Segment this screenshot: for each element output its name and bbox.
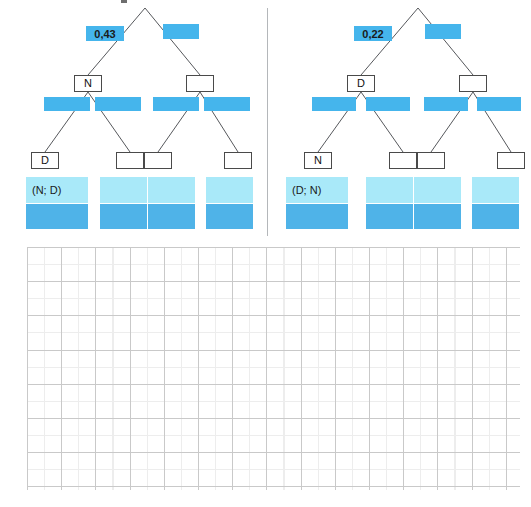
- outcome-label: [148, 177, 195, 203]
- right-tree-leaf-3[interactable]: [417, 152, 445, 169]
- left-tree-node-r[interactable]: [186, 75, 214, 92]
- outcome-label: [100, 177, 147, 203]
- outcome-bottom-band: [414, 204, 461, 229]
- right-tree-prob-right[interactable]: [425, 24, 461, 39]
- left-tree-prob-l1[interactable]: [44, 97, 90, 111]
- figure-canvas: 0,43 N D (N; D): [0, 0, 531, 507]
- right-tree-leaf-2[interactable]: [389, 152, 417, 169]
- left-tree-prob-r2[interactable]: [204, 97, 250, 111]
- right-tree-prob-left[interactable]: 0,22: [354, 26, 392, 41]
- right-tree-leaf-4[interactable]: [497, 152, 525, 169]
- outcome-label: [366, 177, 413, 203]
- left-tree-leaf-4[interactable]: [224, 152, 252, 169]
- left-tree-outcome-3[interactable]: [148, 177, 195, 229]
- right-tree-outcome-1[interactable]: (D; N): [286, 177, 348, 229]
- left-tree: 0,43 N D (N; D): [0, 0, 265, 240]
- right-tree-prob-l1[interactable]: [312, 97, 356, 111]
- left-tree-leaf-1[interactable]: D: [31, 152, 59, 169]
- outcome-label: [414, 177, 461, 203]
- right-tree-prob-l2[interactable]: [366, 97, 410, 111]
- outcome-label: (N; D): [26, 177, 88, 203]
- outcome-bottom-band: [472, 204, 519, 229]
- left-tree-prob-r1[interactable]: [153, 97, 199, 111]
- outcome-bottom-band: [26, 204, 88, 229]
- outcome-label: [472, 177, 519, 203]
- right-tree: 0,22 D N (D; N): [266, 0, 531, 240]
- right-tree-prob-r1[interactable]: [424, 97, 468, 111]
- right-tree-leaf-1[interactable]: N: [304, 152, 332, 169]
- left-tree-leaf-2[interactable]: [116, 152, 144, 169]
- right-tree-node-l[interactable]: D: [347, 75, 375, 92]
- right-tree-outcome-2[interactable]: [366, 177, 413, 229]
- left-tree-node-l[interactable]: N: [74, 75, 102, 92]
- outcome-bottom-band: [100, 204, 147, 229]
- left-tree-outcome-2[interactable]: [100, 177, 147, 229]
- worksheet-grid: [27, 247, 520, 490]
- outcome-bottom-band: [206, 204, 253, 229]
- left-tree-prob-right[interactable]: [163, 24, 199, 39]
- outcome-label: (D; N): [286, 177, 348, 203]
- left-tree-outcome-4[interactable]: [206, 177, 253, 229]
- right-tree-node-r[interactable]: [459, 75, 487, 92]
- right-tree-prob-r2[interactable]: [477, 97, 521, 111]
- outcome-bottom-band: [286, 204, 348, 229]
- outcome-bottom-band: [148, 204, 195, 229]
- right-tree-outcome-4[interactable]: [472, 177, 519, 229]
- outcome-bottom-band: [366, 204, 413, 229]
- left-tree-prob-l2[interactable]: [95, 97, 141, 111]
- right-tree-outcome-3[interactable]: [414, 177, 461, 229]
- outcome-label: [206, 177, 253, 203]
- left-tree-outcome-1[interactable]: (N; D): [26, 177, 88, 229]
- left-tree-leaf-3[interactable]: [144, 152, 172, 169]
- left-tree-prob-left[interactable]: 0,43: [86, 26, 124, 41]
